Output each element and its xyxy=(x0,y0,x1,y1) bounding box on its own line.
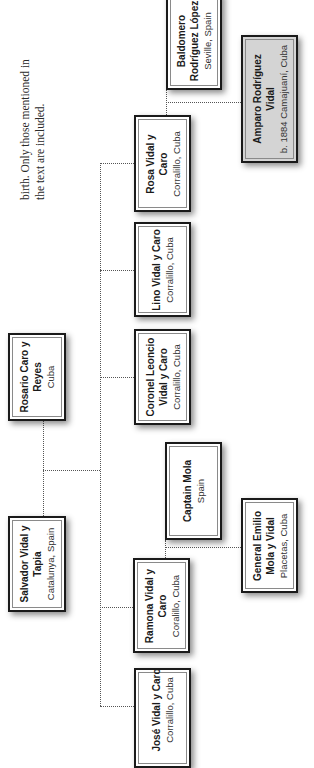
person-name: Reyes xyxy=(31,341,44,412)
person-name: Baldomero xyxy=(175,1,188,82)
person-place: Seville, Spain xyxy=(201,1,214,82)
connector-jose xyxy=(100,706,134,707)
person-box-lino: Lino Vidal y Caro Corralillo, Cuba xyxy=(134,222,191,317)
person-name: Tapia xyxy=(31,525,44,602)
person-place: Catalunya, Spain xyxy=(44,525,57,602)
person-box-ramona: Ramona Vidal y Caro Coralillo, Cuba xyxy=(133,558,190,653)
person-place: b. 1884 Camajuaní, Cuba xyxy=(276,45,289,153)
parents-to-trunk-connector xyxy=(43,470,100,471)
person-name: Salvador Vidal y xyxy=(18,525,31,602)
person-place: Placetas, Cuba xyxy=(276,510,289,580)
person-name: Ramona Vidal y xyxy=(142,568,155,642)
person-place: Corralillo, Cuba xyxy=(169,338,182,417)
person-name: Rosa Vidal y xyxy=(143,131,156,196)
connector-coronel xyxy=(100,377,134,378)
parents-connector-v xyxy=(43,421,44,516)
person-name: Vidal y Caro xyxy=(156,338,169,417)
person-box-baldomero: Baldomero Rodríguez López Seville, Spain xyxy=(166,0,222,90)
person-name: Vidal xyxy=(263,45,276,153)
person-box-captain-mola: Captain Mola Spain xyxy=(165,442,222,540)
connector-general-emilio xyxy=(165,547,241,548)
person-name: Rodríguez López xyxy=(188,1,201,82)
caption-line-2: the text are included. xyxy=(33,59,48,200)
person-name: Caro xyxy=(155,568,168,642)
person-name: Lino Vidal y Caro xyxy=(150,229,163,311)
person-name: Captain Mola xyxy=(181,460,194,522)
person-place: Coralillo, Cuba xyxy=(168,568,181,642)
person-name: Rosario Caro y xyxy=(18,341,31,412)
person-box-general-emilio: General Emilio Mola y Vidal Placetas, Cu… xyxy=(241,498,298,593)
person-box-coronel-leoncio: Coronel Leoncio Vidal y Caro Corralillo,… xyxy=(134,329,191,425)
person-place: Cuba xyxy=(44,341,57,412)
person-name: Mola y Vidal xyxy=(263,510,276,580)
person-place: Corralillo, Cuba xyxy=(163,229,176,311)
connector-amparo xyxy=(166,102,241,103)
person-place: Spain xyxy=(194,460,207,522)
diagram-caption: birth. Only those mentioned in the text … xyxy=(18,59,48,200)
mola-ramona-connector-v xyxy=(165,540,166,558)
person-name: José Vidal y Caro xyxy=(150,669,163,752)
caption-line-1: birth. Only those mentioned in xyxy=(18,59,33,200)
person-box-rosario: Rosario Caro y Reyes Cuba xyxy=(8,333,66,421)
person-box-salvador: Salvador Vidal y Tapia Catalunya, Spain xyxy=(8,516,66,612)
person-name: Caro xyxy=(156,131,169,196)
person-name: Coronel Leoncio xyxy=(143,338,156,417)
person-place: Corralillo, Cuba xyxy=(169,131,182,196)
person-box-jose: José Vidal y Caro Corralillo, Cuba xyxy=(134,668,191,768)
person-box-amparo: Amparo Rodríguez Vidal b. 1884 Camajuaní… xyxy=(241,35,298,163)
person-name: General Emilio xyxy=(250,510,263,580)
person-box-rosa: Rosa Vidal y Caro Corralillo, Cuba xyxy=(134,115,191,212)
person-place: Corralillo, Cuba xyxy=(163,669,176,752)
connector-lino xyxy=(100,270,134,271)
children-trunk xyxy=(100,163,101,706)
person-name: Amparo Rodríguez xyxy=(250,45,263,153)
connector-ramona xyxy=(100,607,133,608)
connector-rosa xyxy=(100,163,134,164)
